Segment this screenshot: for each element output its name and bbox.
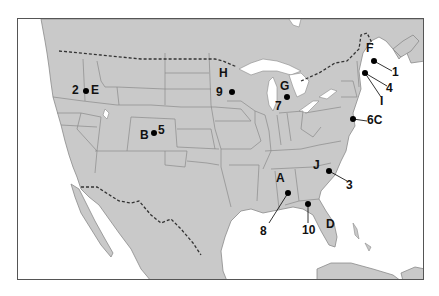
label-9: 9	[216, 86, 223, 98]
label-8: 8	[260, 225, 267, 237]
label-5: 5	[158, 124, 165, 136]
label-3: 3	[346, 179, 353, 191]
label-J: J	[313, 159, 320, 171]
leader-4	[365, 73, 387, 86]
label-D: D	[326, 218, 335, 230]
label-E: E	[91, 84, 99, 96]
label-B: B	[140, 129, 149, 141]
leader-1	[374, 61, 392, 71]
label-I: I	[380, 95, 383, 107]
map-frame	[17, 18, 424, 280]
marker-H9	[229, 89, 235, 95]
marker-2E	[83, 88, 89, 94]
bahamas	[353, 223, 359, 239]
marker-B5	[151, 130, 157, 136]
label-A: A	[276, 172, 285, 184]
label-6C: 6C	[367, 114, 382, 126]
cuba	[317, 263, 401, 280]
label-F: F	[366, 42, 373, 54]
marker-G7	[284, 94, 290, 100]
label-10: 10	[302, 224, 315, 236]
bahamas-2	[365, 243, 371, 251]
label-4: 4	[386, 82, 393, 94]
label-H: H	[219, 67, 228, 79]
label-2: 2	[72, 84, 79, 96]
north-america-map	[18, 19, 424, 280]
hispaniola	[401, 267, 424, 280]
label-1: 1	[392, 66, 399, 78]
label-G: G	[280, 80, 289, 92]
leader-I	[365, 73, 381, 97]
label-7: 7	[275, 100, 282, 112]
